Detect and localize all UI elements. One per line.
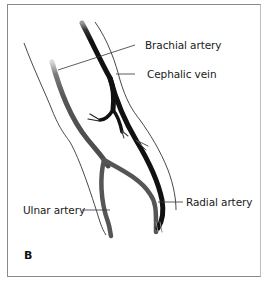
label-ulnar-artery: Ulnar artery: [23, 205, 85, 216]
panel-label: B: [24, 250, 32, 261]
vessel-drawing: [0, 0, 267, 284]
cephalic-vein: [82, 23, 163, 232]
label-brachial-artery: Brachial artery: [145, 40, 221, 51]
label-radial-artery: Radial artery: [186, 197, 252, 208]
label-cephalic-vein: Cephalic vein: [147, 69, 216, 80]
forearm-vascular-diagram: Brachial artery Cephalic vein Ulnar arte…: [0, 0, 267, 284]
